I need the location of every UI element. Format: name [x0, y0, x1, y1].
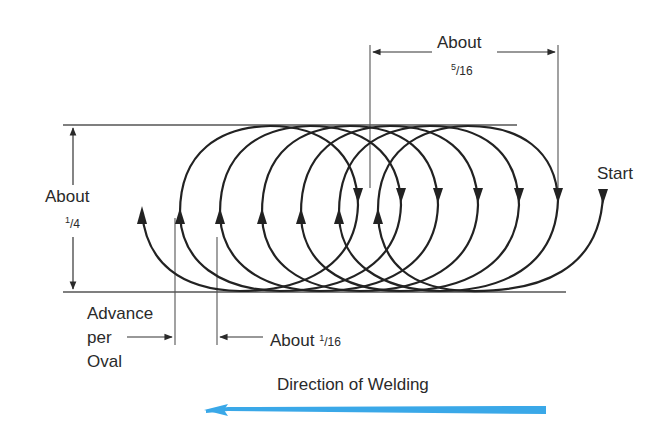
advance-label-line2: per	[87, 328, 112, 348]
advance-label-line1: Advance	[87, 304, 153, 324]
down-arrowheads	[353, 188, 608, 204]
width-label-about: About	[437, 33, 481, 53]
up-arrowheads	[137, 206, 383, 224]
height-label-about: About	[45, 187, 89, 207]
start-label: Start	[597, 164, 633, 184]
advance-about-label: About 1/16	[270, 328, 341, 352]
weave-path	[142, 126, 603, 291]
height-label-fraction: 1/4	[65, 210, 80, 234]
width-label-fraction: 5/16	[451, 57, 473, 81]
direction-arrow	[206, 406, 546, 414]
direction-of-welding-label: Direction of Welding	[277, 375, 429, 395]
advance-label-line3: Oval	[87, 352, 122, 372]
